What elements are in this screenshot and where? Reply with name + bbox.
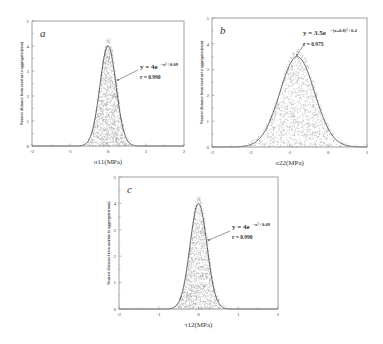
scatter-points	[232, 49, 365, 148]
fit-equation: y = 4e−x² / 0.09r = 0.990	[208, 222, 271, 241]
y-tick-label: 5	[27, 19, 30, 24]
svg-text:y = 4e: y = 4e	[232, 223, 250, 231]
x-axis: -2-1012	[117, 307, 280, 318]
y-tick-label: 3	[114, 228, 117, 233]
figure-canvas: -2-1012012345σ11(MPa)Nearest distance fr…	[0, 0, 383, 344]
y-tick-label: 1	[114, 280, 117, 285]
y-axis-label: Nearest distance from mortar to aggregat…	[19, 41, 24, 125]
r-value: r = 0.990	[140, 74, 161, 80]
svg-text:−x² / 0.09: −x² / 0.09	[160, 62, 178, 67]
y-axis: 012345	[207, 16, 215, 150]
x-tick-label: -2	[249, 150, 254, 155]
y-tick-label: 2	[27, 94, 30, 99]
x-tick-label: 0	[197, 312, 200, 317]
x-tick-label: 2	[277, 312, 280, 317]
x-tick-label: 1	[366, 150, 369, 155]
panel-letter: a	[40, 27, 46, 39]
y-tick-label: 1	[207, 119, 210, 124]
x-axis-label: τ12(MPa)	[185, 321, 213, 329]
y-axis-label: Nearest distance from mortar to aggregat…	[106, 201, 111, 285]
x-axis: -2-1012	[30, 144, 186, 155]
x-tick-label: 1	[145, 149, 148, 154]
chart-panel-b: -3-2-101012345σ22(MPa)Nearest distance f…	[199, 16, 369, 167]
y-tick-label: 0	[114, 307, 117, 312]
x-axis-label: σ22(MPa)	[275, 159, 304, 167]
annotation-arrow	[209, 231, 230, 240]
x-tick-label: 2	[183, 149, 186, 154]
x-tick-label: -2	[117, 312, 122, 317]
x-tick-label: 1	[237, 312, 240, 317]
x-tick-label: 0	[107, 149, 110, 154]
x-tick-label: -2	[30, 149, 35, 154]
svg-text:y = 3.5e: y = 3.5e	[303, 29, 326, 37]
y-axis: 012345	[27, 19, 35, 149]
x-tick-label: -1	[157, 312, 162, 317]
svg-text:y = 4e: y = 4e	[140, 63, 158, 71]
r-value: r = 0.975	[303, 41, 324, 47]
x-tick-label: -3	[210, 150, 215, 155]
chart-panel-a: -2-1012012345σ11(MPa)Nearest distance fr…	[19, 19, 186, 166]
scatter-points	[172, 196, 229, 310]
svg-text:−x² / 0.09: −x² / 0.09	[252, 222, 270, 227]
y-tick-label: 4	[207, 42, 210, 47]
fit-equation: y = 3.5e−(x+0.8)² / 0.4r = 0.975	[296, 28, 357, 56]
y-tick-label: 4	[27, 44, 30, 49]
y-axis-label: Nearest distance from mortar to aggregat…	[199, 40, 204, 124]
plot-frame	[32, 21, 184, 146]
y-tick-label: 5	[207, 16, 210, 21]
y-tick-label: 2	[114, 254, 117, 259]
x-tick-label: -1	[287, 150, 292, 155]
y-axis: 012345	[114, 175, 122, 312]
annotation-arrow	[118, 70, 138, 80]
y-tick-label: 3	[27, 69, 30, 74]
panel-letter: b	[220, 24, 226, 36]
y-tick-label: 5	[114, 175, 117, 180]
x-tick-label: -1	[68, 149, 73, 154]
y-tick-label: 1	[27, 119, 30, 124]
y-tick-label: 0	[27, 144, 30, 149]
y-tick-label: 4	[114, 201, 117, 206]
x-tick-label: 0	[327, 150, 330, 155]
fit-equation: y = 4e−x² / 0.09r = 0.990	[117, 62, 179, 81]
y-tick-label: 2	[207, 93, 210, 98]
chart-panel-c: -2-1012012345τ12(MPa)Nearest distance fr…	[106, 175, 280, 329]
scatter-points	[80, 38, 141, 147]
svg-text:−(x+0.8)² / 0.4: −(x+0.8)² / 0.4	[330, 28, 357, 33]
y-tick-label: 0	[207, 145, 210, 150]
y-tick-label: 3	[207, 67, 210, 72]
panel-letter: c	[127, 183, 132, 195]
x-axis-label: σ11(MPa)	[94, 158, 123, 166]
r-value: r = 0.990	[232, 234, 253, 240]
